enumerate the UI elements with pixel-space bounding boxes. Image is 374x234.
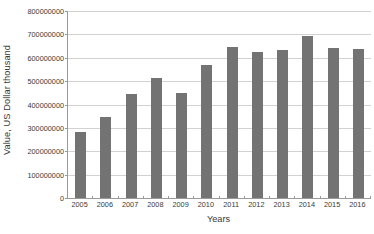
- y-tick-label: 500000000: [27, 77, 64, 86]
- x-tick-mark: [370, 196, 371, 199]
- x-tick-label: 2012: [248, 200, 264, 209]
- x-tick-mark: [193, 196, 194, 199]
- x-tick-mark: [269, 196, 270, 199]
- x-axis-title: Years: [67, 214, 370, 224]
- x-tick-label: 2008: [147, 200, 163, 209]
- x-tick-mark: [219, 196, 220, 199]
- x-tick-mark: [143, 196, 144, 199]
- bar: [176, 93, 187, 198]
- y-tick-label: 300000000: [27, 123, 64, 132]
- x-tick-mark: [345, 196, 346, 199]
- bar-chart: Value, US Dollar thousand 01000000002000…: [0, 0, 374, 234]
- y-tick-label: 100000000: [27, 170, 64, 179]
- y-tick-label: 0: [60, 194, 64, 203]
- y-tick-label: 200000000: [27, 147, 64, 156]
- x-tick-mark: [92, 196, 93, 199]
- x-tick-label: 2016: [349, 200, 365, 209]
- bar-series: [68, 11, 371, 198]
- bar: [328, 48, 339, 198]
- y-tick-label: 600000000: [27, 53, 64, 62]
- y-tick-label: 700000000: [27, 30, 64, 39]
- x-tick-mark: [320, 196, 321, 199]
- x-tick-label: 2005: [72, 200, 88, 209]
- x-tick-label: 2014: [299, 200, 315, 209]
- bar: [75, 132, 86, 198]
- x-tick-mark: [168, 196, 169, 199]
- y-tick-label: 800000000: [27, 7, 64, 16]
- x-tick-label: 2009: [173, 200, 189, 209]
- bar: [277, 50, 288, 198]
- x-tick-label: 2006: [97, 200, 113, 209]
- x-axis-tick-labels: 2005200620072008200920102011201220132014…: [67, 200, 370, 214]
- x-tick-mark: [118, 196, 119, 199]
- y-axis-tick-labels: 0100000000200000000300000000400000000500…: [14, 0, 66, 234]
- x-tick-mark: [67, 196, 68, 199]
- x-tick-mark: [244, 196, 245, 199]
- x-tick-label: 2013: [274, 200, 290, 209]
- x-tick-label: 2010: [198, 200, 214, 209]
- bar: [227, 47, 238, 198]
- bar: [252, 52, 263, 198]
- x-tick-label: 2015: [324, 200, 340, 209]
- bar: [126, 94, 137, 198]
- bar: [100, 117, 111, 198]
- bar: [151, 78, 162, 198]
- x-tick-label: 2007: [122, 200, 138, 209]
- y-axis-title: Value, US Dollar thousand: [0, 0, 14, 200]
- x-tick-mark: [294, 196, 295, 199]
- bar: [201, 65, 212, 198]
- bar: [353, 49, 364, 198]
- bar: [302, 36, 313, 198]
- y-tick-label: 400000000: [27, 100, 64, 109]
- plot-area: [67, 11, 371, 199]
- y-axis-title-text: Value, US Dollar thousand: [2, 45, 12, 155]
- x-tick-label: 2011: [223, 200, 239, 209]
